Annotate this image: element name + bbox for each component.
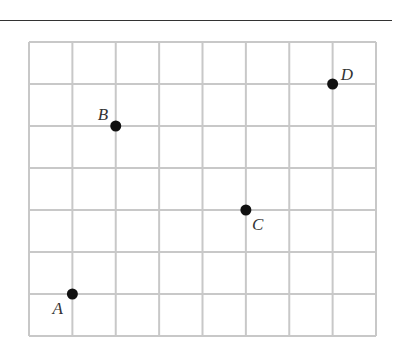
point-label-a: A [51, 299, 63, 318]
point-label-c: C [252, 215, 264, 234]
coordinate-grid: ABCD [0, 0, 393, 360]
point-d [327, 79, 338, 90]
point-label-d: D [340, 65, 354, 84]
point-label-b: B [98, 105, 109, 124]
point-a [67, 289, 78, 300]
point-c [240, 205, 251, 216]
point-b [110, 121, 121, 132]
